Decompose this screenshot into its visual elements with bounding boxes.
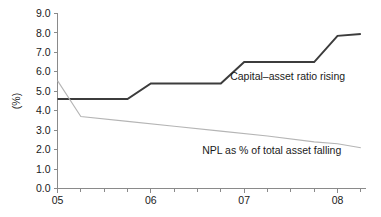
x-tick-label-2: 07 bbox=[238, 194, 250, 206]
y-tick-label-9: 9.0 bbox=[36, 7, 51, 19]
y-axis-title: (%) bbox=[10, 93, 22, 109]
y-axis-tick-labels: 0.01.02.03.04.05.06.07.08.09.0 bbox=[36, 7, 51, 194]
line-chart: 0.01.02.03.04.05.06.07.08.09.0 05060708 … bbox=[0, 0, 381, 217]
y-tick-label-8: 8.0 bbox=[36, 27, 51, 39]
y-axis-title-text: (%) bbox=[10, 93, 22, 109]
series-line-0 bbox=[58, 34, 361, 99]
x-axis-tick-labels: 05060708 bbox=[52, 194, 344, 206]
y-tick-label-2: 2.0 bbox=[36, 143, 51, 155]
chart-figure: 0.01.02.03.04.05.06.07.08.09.0 05060708 … bbox=[0, 0, 381, 217]
y-tick-label-7: 7.0 bbox=[36, 46, 51, 58]
tick-marks bbox=[54, 14, 361, 193]
x-tick-label-0: 05 bbox=[52, 194, 64, 206]
annotation-1: NPL as % of total asset falling bbox=[202, 144, 341, 156]
y-tick-label-5: 5.0 bbox=[36, 85, 51, 97]
y-tick-label-1: 1.0 bbox=[36, 163, 51, 175]
y-tick-label-3: 3.0 bbox=[36, 124, 51, 136]
x-tick-label-3: 08 bbox=[332, 194, 344, 206]
series-line-1 bbox=[58, 81, 361, 148]
series-annotations: Capital–asset ratio risingNPL as % of to… bbox=[202, 70, 345, 157]
axis-spines bbox=[58, 14, 366, 189]
data-series bbox=[58, 34, 361, 148]
x-tick-label-1: 06 bbox=[145, 194, 157, 206]
axes bbox=[58, 14, 366, 189]
annotation-0: Capital–asset ratio rising bbox=[230, 70, 345, 82]
y-tick-label-4: 4.0 bbox=[36, 104, 51, 116]
y-tick-label-0: 0.0 bbox=[36, 182, 51, 194]
y-tick-label-6: 6.0 bbox=[36, 65, 51, 77]
